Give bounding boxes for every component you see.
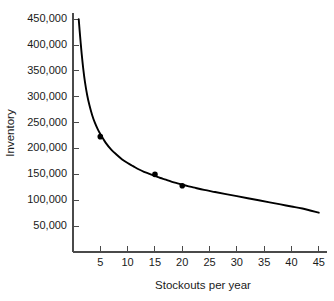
y-axis-tick-marks — [73, 19, 79, 226]
y-tick-label: 350,000 — [27, 64, 67, 76]
x-axis-tick-marks — [100, 246, 318, 252]
inventory-vs-stockouts-chart: 50,000100,000150,000200,000250,000300,00… — [0, 0, 334, 301]
x-tick-label: 30 — [231, 256, 243, 268]
y-tick-label: 100,000 — [27, 193, 67, 205]
data-point — [152, 172, 158, 178]
chart-canvas: 50,000100,000150,000200,000250,000300,00… — [0, 0, 334, 301]
data-point — [98, 134, 104, 140]
x-axis-tick-labels: 51015202530354045 — [97, 256, 325, 268]
y-tick-label: 150,000 — [27, 167, 67, 179]
x-tick-label: 40 — [285, 256, 297, 268]
x-tick-label: 5 — [97, 256, 103, 268]
y-tick-label: 400,000 — [27, 38, 67, 50]
x-tick-label: 20 — [176, 256, 188, 268]
x-axis-title: Stockouts per year — [155, 279, 251, 291]
y-tick-label: 450,000 — [27, 12, 67, 24]
x-tick-label: 45 — [313, 256, 325, 268]
y-tick-label: 50,000 — [33, 219, 67, 231]
y-tick-label: 300,000 — [27, 90, 67, 102]
data-point-markers — [98, 134, 186, 189]
x-tick-label: 10 — [121, 256, 133, 268]
y-tick-label: 250,000 — [27, 116, 67, 128]
y-axis-title: Inventory — [4, 109, 16, 157]
x-tick-label: 35 — [258, 256, 270, 268]
data-point — [179, 183, 185, 189]
y-tick-label: 200,000 — [27, 141, 67, 153]
y-axis-tick-labels: 50,000100,000150,000200,000250,000300,00… — [27, 12, 67, 231]
x-tick-label: 25 — [203, 256, 215, 268]
x-tick-label: 15 — [149, 256, 161, 268]
fitted-curve-line — [79, 19, 319, 212]
